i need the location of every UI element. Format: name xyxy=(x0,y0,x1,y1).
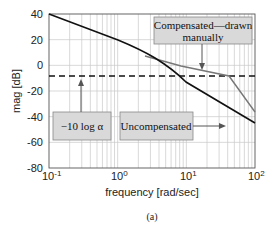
x-tick-0.1: 10-1 xyxy=(42,169,62,182)
annotation-compensated-line1: Compensated—drawn xyxy=(154,19,253,31)
figure-caption: (a) xyxy=(146,211,157,223)
x-tick-1: 100 xyxy=(111,169,128,182)
bode-magnitude-chart: 40 20 0 -20 -40 -60 -80 10-1 100 101 102… xyxy=(0,0,277,233)
arrow-head-icon xyxy=(219,123,226,129)
y-tick-neg80: -80 xyxy=(27,162,43,174)
arrow-head-icon xyxy=(78,79,84,86)
y-tick-neg40: -40 xyxy=(27,111,43,123)
y-axis-label: mag [dB] xyxy=(10,69,22,113)
y-tick-0: 0 xyxy=(37,59,43,71)
x-tick-10: 101 xyxy=(180,169,197,182)
x-tick-100: 102 xyxy=(248,169,265,182)
y-tick-neg60: -60 xyxy=(27,136,43,148)
y-tick-20: 20 xyxy=(31,34,43,46)
annotation-compensated-line2: manually xyxy=(183,31,224,43)
y-tick-labels: 40 20 0 -20 -40 -60 -80 xyxy=(27,8,43,174)
annotation-uncompensated: Uncompensated xyxy=(120,112,226,140)
annotation-alpha-text: −10 log α xyxy=(61,120,104,132)
y-tick-40: 40 xyxy=(31,8,43,20)
x-tick-labels: 10-1 100 101 102 xyxy=(42,169,265,182)
y-tick-neg20: -20 xyxy=(27,85,43,97)
annotation-uncompensated-text: Uncompensated xyxy=(121,120,192,132)
x-axis-label: frequency [rad/sec] xyxy=(105,186,199,198)
arrow-head-icon xyxy=(199,63,205,70)
